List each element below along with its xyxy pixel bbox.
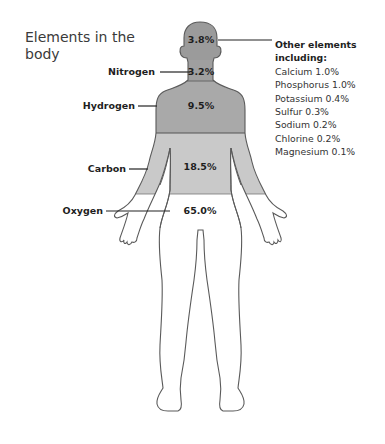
other-element-item: Calcium 1.0% (275, 65, 356, 78)
other-element-item: Potassium 0.4% (275, 92, 356, 105)
other-elements-list: Other elements including: Calcium 1.0% P… (275, 38, 356, 159)
nitrogen-label: Nitrogen (108, 66, 155, 77)
other-element-item: Chlorine 0.2% (275, 132, 356, 145)
oxygen-label: Oxygen (63, 205, 103, 216)
other-elements-header: Other elements (275, 38, 356, 51)
other-percentage: 3.8% (186, 34, 216, 45)
oxygen-percentage: 65.0% (178, 205, 222, 216)
other-element-item: Magnesium 0.1% (275, 145, 356, 158)
carbon-label: Carbon (88, 163, 126, 174)
other-element-item: Phosphorus 1.0% (275, 78, 356, 91)
other-element-item: Sodium 0.2% (275, 118, 356, 131)
other-elements-subheader: including: (275, 51, 356, 64)
carbon-percentage: 18.5% (178, 161, 222, 172)
hydrogen-label: Hydrogen (83, 100, 135, 111)
nitrogen-percentage: 3.2% (186, 66, 216, 77)
other-element-item: Sulfur 0.3% (275, 105, 356, 118)
hydrogen-percentage: 9.5% (181, 100, 221, 111)
